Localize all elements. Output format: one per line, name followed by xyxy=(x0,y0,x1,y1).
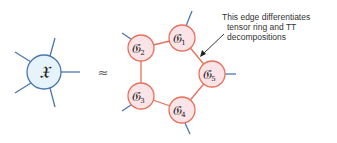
leg-g3 xyxy=(122,105,131,111)
full-tensor-node: 𝔛 xyxy=(15,38,80,107)
arrowhead-icon xyxy=(200,50,206,57)
tensor-ring-diagram: 𝔛 ≈ 𝔊1 𝔊2 𝔊3 𝔊4 𝔊5 xyxy=(0,0,337,143)
annotation-arrow xyxy=(200,34,224,57)
annotation-line-2: tensor ring and TT xyxy=(227,22,296,32)
leg-g1 xyxy=(186,11,192,26)
core-g5: 𝔊5 xyxy=(199,61,225,87)
approx-symbol: ≈ xyxy=(98,65,109,80)
leg-g2 xyxy=(122,33,131,39)
annotation-text: This edge differentiates tensor ring and… xyxy=(222,12,310,42)
leg-edge xyxy=(50,38,55,56)
annotation-line-3: decompositions xyxy=(227,32,286,42)
core-g3: 𝔊3 xyxy=(128,83,154,109)
annotation-line-1: This edge differentiates xyxy=(222,12,310,22)
arrow-shaft xyxy=(203,34,224,54)
core-g2: 𝔊2 xyxy=(128,35,154,61)
leg-edge xyxy=(50,88,55,107)
leg-edge xyxy=(15,83,31,93)
leg-g4 xyxy=(185,123,190,134)
core-g4: 𝔊4 xyxy=(169,97,195,123)
leg-edge xyxy=(15,52,31,62)
core-g1: 𝔊1 xyxy=(169,25,195,51)
